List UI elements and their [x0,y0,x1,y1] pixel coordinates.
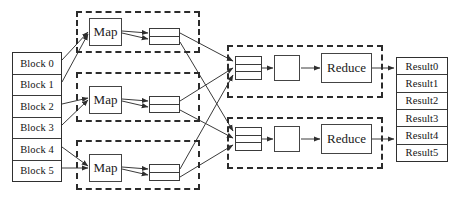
buffer-cell [150,105,179,112]
buffer-cell [150,29,179,37]
mapreduce-diagram: Block 0 Block 1 Block 2 Block 3 Block 4 … [0,0,460,206]
map-output-buffer-2 [149,96,180,113]
reduce-box-2: Reduce [321,124,372,154]
stack-cell [236,143,261,150]
reduce-input-stack-2 [235,127,262,151]
map-box-3: Map [89,154,122,182]
list-item: Result5 [397,145,447,161]
list-item: Block 4 [13,139,61,161]
stack-cell [236,65,261,73]
list-item: Block 3 [13,118,61,140]
output-result-list: Result0 Result1 Result2 Result3 Result4 … [396,57,448,162]
list-item: Block 5 [13,161,61,182]
reduce-input-stack-1 [235,56,262,80]
list-item: Block 0 [13,53,61,75]
merge-box-1 [274,55,300,81]
reduce-box-1: Reduce [321,53,372,83]
stack-cell [236,57,261,65]
stack-cell [236,128,261,136]
connector-lines [0,0,460,206]
input-block-list: Block 0 Block 1 Block 2 Block 3 Block 4 … [12,52,62,182]
list-item: Result4 [397,127,447,144]
buffer-cell [150,165,179,173]
list-item: Result2 [397,93,447,110]
list-item: Block 2 [13,96,61,118]
map-output-buffer-3 [149,164,180,181]
stack-cell [236,136,261,144]
stack-cell [236,72,261,79]
list-item: Result1 [397,75,447,92]
map-box-1: Map [89,18,122,46]
list-item: Block 1 [13,75,61,97]
list-item: Result0 [397,58,447,75]
list-item: Result3 [397,110,447,127]
map-box-2: Map [89,86,122,114]
buffer-cell [150,173,179,180]
map-output-buffer-1 [149,28,180,45]
merge-box-2 [274,126,300,152]
buffer-cell [150,37,179,44]
buffer-cell [150,97,179,105]
